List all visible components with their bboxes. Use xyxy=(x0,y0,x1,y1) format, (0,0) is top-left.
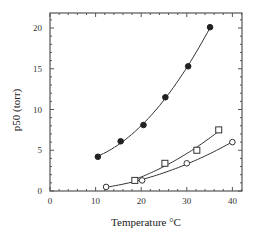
x-axis-label: Temperature °C xyxy=(111,216,181,228)
data-point xyxy=(118,138,124,144)
y-tick-label: 0 xyxy=(38,186,43,196)
fit-curve-filled-circles xyxy=(98,28,210,157)
data-point xyxy=(132,177,138,183)
plot-frame xyxy=(50,13,242,191)
x-tick-label: 20 xyxy=(137,196,147,206)
y-axis-label: p50 (torr) xyxy=(10,88,23,131)
data-point xyxy=(103,184,109,190)
y-axis: 05101520 xyxy=(33,20,242,196)
plot-border xyxy=(50,13,242,191)
x-tick-label: 30 xyxy=(182,196,192,206)
data-point xyxy=(95,154,101,160)
x-tick-label: 0 xyxy=(48,196,53,206)
y-tick-label: 10 xyxy=(33,105,43,115)
fit-curve-open-circles xyxy=(106,142,232,188)
y-tick-label: 5 xyxy=(38,145,43,155)
data-point xyxy=(141,122,147,128)
data-point xyxy=(185,64,191,70)
x-tick-label: 40 xyxy=(228,196,238,206)
data-markers xyxy=(95,24,235,189)
data-point xyxy=(216,127,222,133)
data-point xyxy=(184,160,190,166)
data-point xyxy=(162,160,168,166)
data-point xyxy=(207,24,213,30)
data-point xyxy=(230,139,236,145)
data-point xyxy=(163,94,169,100)
x-axis: 010203040 xyxy=(48,13,242,206)
x-tick-label: 10 xyxy=(91,196,101,206)
chart: 010203040 05101520 Temperature °C p50 (t… xyxy=(0,0,257,236)
y-tick-label: 20 xyxy=(33,23,43,33)
data-point xyxy=(139,178,145,184)
y-tick-label: 15 xyxy=(33,64,43,74)
data-point xyxy=(194,147,200,153)
